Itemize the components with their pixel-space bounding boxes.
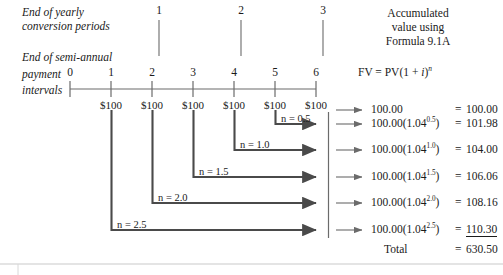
- timeline-diagram: End of yearly conversion periods End of …: [0, 0, 503, 275]
- calc-value-5: 108.16: [466, 196, 498, 208]
- tick-label-1: 1: [101, 66, 121, 78]
- calc-expression-1-base: 100.00: [371, 103, 403, 115]
- total-equals: =: [455, 243, 462, 255]
- yearly-conversion-ticks: [159, 20, 323, 56]
- calc-value-2: 101.98: [466, 117, 498, 129]
- bracket-label-n10: n = 1.0: [240, 139, 270, 150]
- payment-label-5: $100: [255, 99, 295, 111]
- calc-equals-2: =: [455, 117, 462, 129]
- bracket-label-n15: n = 1.5: [199, 166, 229, 177]
- calc-expression-5: 100.00(1.042.0): [371, 196, 439, 208]
- calc-expression-6-base: 100.00(1.04: [371, 223, 427, 235]
- accumulated-value-heading: Accumulated value using Formula 9.1A: [358, 6, 478, 48]
- bracket-label-n05: n = 0.5: [281, 113, 311, 124]
- semi-annual-label-line3-wrap: intervals: [22, 84, 62, 98]
- fv-formula-prefix: FV = PV(1 +: [358, 66, 421, 78]
- calc-expression-5-exponent: 2.0: [427, 195, 436, 203]
- tick-label-3: 3: [183, 66, 203, 78]
- year-label-2: 2: [231, 4, 251, 16]
- payment-label-4: $100: [214, 99, 254, 111]
- calc-expression-6-rest: ): [436, 223, 440, 235]
- fv-formula: FV = PV(1 + i)n: [358, 66, 432, 78]
- calc-equals-4: =: [455, 170, 462, 182]
- calc-expression-3: 100.00(1.041.0): [371, 143, 439, 155]
- accumulated-value-heading-line2: value using: [358, 20, 478, 34]
- calc-value-6: 110.30: [466, 223, 497, 237]
- total-label: Total: [384, 243, 407, 255]
- calc-expression-3-rest: ): [436, 143, 440, 155]
- year-label-1: 1: [149, 4, 169, 16]
- timeline-axis: [70, 81, 316, 97]
- payment-label-2: $100: [132, 99, 172, 111]
- calc-value-3: 104.00: [466, 143, 498, 155]
- total-value: 630.50: [466, 243, 498, 255]
- calc-equals-5: =: [455, 196, 462, 208]
- calc-expression-2-base: 100.00(1.04: [371, 117, 427, 129]
- tick-label-5: 5: [265, 66, 285, 78]
- tick-label-0: 0: [60, 66, 80, 78]
- calc-value-4: 106.06: [466, 170, 498, 182]
- payment-label-1: $100: [91, 99, 131, 111]
- calc-expression-4-rest: ): [436, 170, 440, 182]
- row-arrows: [336, 110, 362, 230]
- calc-value-1: 100.00: [466, 103, 498, 115]
- calc-expression-5-rest: ): [436, 196, 440, 208]
- semi-annual-label-line1: End of semi-annual: [22, 51, 112, 65]
- calc-equals-3: =: [455, 143, 462, 155]
- calc-expression-6-exponent: 2.5: [427, 222, 436, 230]
- calc-expression-5-base: 100.00(1.04: [371, 196, 427, 208]
- calc-expression-1: 100.00: [371, 103, 403, 115]
- calc-expression-4: 100.00(1.041.5): [371, 170, 439, 182]
- semi-annual-label-line1-wrap: End of semi-annual: [22, 51, 112, 65]
- calc-expression-2-exponent: 0.5: [427, 116, 436, 124]
- bracket-label-n25: n = 2.5: [117, 219, 147, 230]
- calc-expression-3-base: 100.00(1.04: [371, 143, 427, 155]
- accumulated-value-heading-line3: Formula 9.1A: [358, 34, 478, 48]
- calc-equals-6: =: [455, 223, 462, 235]
- payment-label-6: $100: [296, 99, 336, 111]
- year-label-3: 3: [313, 4, 333, 16]
- semi-annual-label-line2-wrap: payment: [22, 68, 61, 82]
- tick-label-4: 4: [224, 66, 244, 78]
- calc-expression-4-exponent: 1.5: [427, 169, 436, 177]
- calc-expression-3-exponent: 1.0: [427, 142, 436, 150]
- semi-annual-label-line2: payment: [22, 68, 61, 82]
- calc-expression-2: 100.00(1.040.5): [371, 117, 439, 129]
- fv-formula-exponent: n: [428, 64, 432, 73]
- calc-expression-2-rest: ): [436, 117, 440, 129]
- calc-equals-1: =: [455, 103, 462, 115]
- payment-label-3: $100: [173, 99, 213, 111]
- calc-expression-6: 100.00(1.042.5): [371, 223, 439, 235]
- accumulated-value-heading-line1: Accumulated: [358, 6, 478, 20]
- tick-label-2: 2: [142, 66, 162, 78]
- yearly-conversion-label: End of yearly conversion periods: [22, 6, 110, 33]
- semi-annual-label-line3: intervals: [22, 84, 62, 98]
- bracket-label-n20: n = 2.0: [158, 192, 188, 203]
- calc-expression-4-base: 100.00(1.04: [371, 170, 427, 182]
- yearly-conversion-label-line1: End of yearly: [22, 6, 110, 20]
- yearly-conversion-label-line2: conversion periods: [22, 20, 110, 34]
- tick-label-6: 6: [306, 66, 326, 78]
